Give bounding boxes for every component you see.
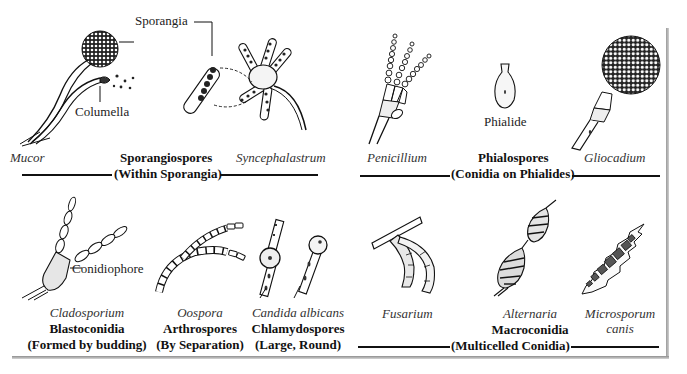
callout-sporangia: Sporangia bbox=[135, 13, 188, 29]
category-subtitle-macroconidia: (Multicelled Conidia) bbox=[451, 338, 570, 354]
rule-left-phialospores bbox=[360, 175, 450, 177]
rule-right-macroconidia bbox=[571, 346, 659, 348]
callout-conidiophore: Conidiophore bbox=[72, 261, 144, 277]
category-title-macroconidia: Macroconidia bbox=[480, 322, 580, 338]
category-title-sporangiospores: Sporangiospores bbox=[120, 150, 212, 166]
fusarium-illustration-icon bbox=[370, 215, 450, 295]
microsporum-canis-illustration-icon bbox=[578, 222, 648, 297]
category-subtitle-sporangiospores: (Within Sporangia) bbox=[114, 166, 222, 182]
category-title-phialospores: Phialospores bbox=[478, 150, 549, 166]
rule-left-macroconidia bbox=[358, 346, 450, 348]
example-mucor: Mucor bbox=[10, 150, 45, 166]
rule-left-sporangiospores bbox=[22, 174, 112, 176]
example-candida-albicans: Candida albicans bbox=[248, 305, 348, 321]
category-subtitle-blastoconidia: (Formed by budding) bbox=[24, 337, 150, 353]
cladosporium-illustration-icon bbox=[18, 196, 128, 301]
gliocadium-illustration-icon bbox=[568, 38, 668, 153]
category-subtitle-phialospores: (Conidia on Phialides) bbox=[451, 166, 575, 182]
example-penicillium: Penicillium bbox=[367, 150, 427, 166]
category-subtitle-chlamydospores: (Large, Round) bbox=[248, 337, 348, 353]
example-syncephalastrum: Syncephalastrum bbox=[236, 150, 326, 166]
mucor-illustration-icon bbox=[10, 20, 160, 150]
rule-right-sporangiospores bbox=[220, 174, 318, 176]
callout-columella: Columella bbox=[75, 104, 129, 120]
rule-right-phialospores bbox=[572, 175, 660, 177]
penicillium-illustration-icon bbox=[365, 32, 435, 147]
example-fusarium: Fusarium bbox=[382, 306, 433, 322]
category-title-chlamydospores: Chlamydospores bbox=[248, 321, 348, 337]
example-canis: canis bbox=[575, 321, 665, 337]
example-gliocadium: Gliocadium bbox=[584, 150, 645, 166]
example-alternaria: Alternaria bbox=[480, 306, 580, 322]
syncephalastrum-illustration-icon bbox=[200, 30, 330, 140]
phialide-illustration-icon bbox=[490, 62, 520, 112]
example-microsporum: Microsporum bbox=[575, 306, 665, 322]
category-title-arthrospores: Arthrospores bbox=[155, 321, 245, 337]
candida-albicans-illustration-icon bbox=[252, 220, 332, 300]
example-cladosporium: Cladosporium bbox=[37, 305, 137, 321]
category-title-blastoconidia: Blastoconidia bbox=[37, 321, 137, 337]
alternaria-illustration-icon bbox=[482, 196, 562, 296]
example-oospora: Oospora bbox=[160, 305, 240, 321]
callout-phialide: Phialide bbox=[484, 114, 527, 130]
oospora-illustration-icon bbox=[155, 222, 245, 297]
category-subtitle-arthrospores: (By Separation) bbox=[150, 337, 250, 353]
page-shadow-bottom bbox=[12, 356, 669, 359]
